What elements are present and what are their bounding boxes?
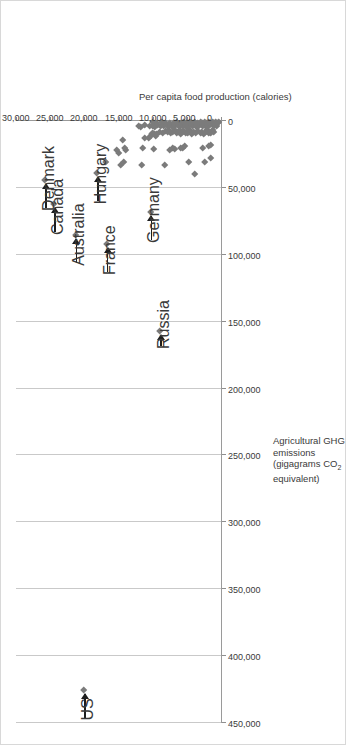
ghg-axis-title-line-1: Agricultural GHG [273, 435, 346, 447]
callout-label: US [79, 698, 97, 720]
ghg-axis-title-line-3-text: (gigagrams CO [273, 458, 337, 469]
value-axis-tick-label: 250,000 [228, 451, 261, 461]
value-axis-tick-mark [222, 588, 226, 589]
gridline-vertical [16, 521, 221, 522]
category-axis-tick-label: 25,000 [36, 113, 64, 123]
value-axis-tick-label: 0 [228, 117, 233, 127]
category-axis-tick-label: 10,000 [139, 113, 167, 123]
value-axis-tick-label: 450,000 [228, 719, 261, 729]
callout-label: Denmark [40, 146, 58, 211]
value-axis-tick-mark [222, 521, 226, 522]
category-axis-tick-label: 30,000 [2, 113, 30, 123]
chart-page: 050,000100,000150,000200,000250,000300,0… [0, 0, 346, 745]
value-axis-tick-label: 200,000 [228, 385, 261, 395]
ghg-axis-title-line-2: emissions [273, 447, 346, 459]
ghg-axis-title: Agricultural GHG emissions (gigagrams CO… [273, 435, 346, 485]
value-axis-tick-label: 350,000 [228, 585, 261, 595]
co2-subscript: 2 [337, 464, 341, 471]
value-axis-tick-mark [222, 187, 226, 188]
data-point [119, 136, 127, 144]
value-axis-tick-mark [222, 321, 226, 322]
category-axis-tick-mark [221, 117, 222, 121]
data-point [139, 144, 147, 152]
gridline-vertical [16, 722, 221, 723]
ghg-axis-title-line-4: equivalent) [273, 474, 346, 486]
value-axis-tick-mark [222, 454, 226, 455]
callout-label: Russia [155, 300, 173, 349]
gridline-vertical [16, 454, 221, 455]
callout-label: France [101, 225, 119, 275]
value-axis-tick-label: 300,000 [228, 518, 261, 528]
category-axis-line [221, 121, 222, 723]
rotated-chart-container: 050,000100,000150,000200,000250,000300,0… [0, 0, 346, 745]
value-axis-tick-label: 400,000 [228, 652, 261, 662]
ghg-axis-title-line-3: (gigagrams CO2 [273, 458, 346, 473]
category-axis-tick-label: 20,000 [70, 113, 98, 123]
gridline-vertical [16, 655, 221, 656]
data-point [201, 159, 209, 167]
category-axis-tick-label: 15,000 [105, 113, 133, 123]
callout-label: Australia [70, 203, 88, 265]
value-axis-tick-mark [222, 722, 226, 723]
value-axis-tick-mark [222, 655, 226, 656]
category-axis-tick-label: 5,000 [173, 113, 196, 123]
value-axis-tick-label: 50,000 [228, 184, 256, 194]
callout-label: Germany [145, 177, 163, 243]
calorie-axis-title: Per capita food production (calories) [139, 91, 292, 102]
gridline-vertical [16, 321, 221, 322]
gridline-vertical [16, 588, 221, 589]
data-point [139, 161, 147, 169]
category-axis-tick-label: 0 [207, 113, 212, 123]
data-point [150, 145, 158, 153]
callout-label: Hungary [92, 144, 110, 204]
scatter-plot-area [16, 121, 221, 723]
data-point [185, 159, 193, 167]
gridline-vertical [16, 388, 221, 389]
data-point [161, 161, 169, 169]
value-axis-tick-mark [222, 388, 226, 389]
data-point [191, 171, 199, 179]
value-axis-tick-label: 100,000 [228, 251, 261, 261]
value-axis-tick-mark [222, 120, 226, 121]
value-axis-tick-label: 150,000 [228, 318, 261, 328]
value-axis-tick-mark [222, 254, 226, 255]
